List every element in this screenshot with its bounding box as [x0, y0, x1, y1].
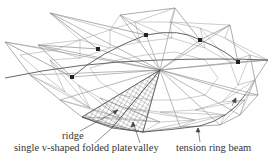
ridge-label: ridge: [62, 131, 84, 142]
tension-ring-beam-label: tension ring beam: [176, 143, 251, 154]
folded-plate-wireframe: [0, 0, 274, 156]
valley-label: valley: [133, 143, 159, 154]
folded-plate-label: single v-shaped folded plate: [14, 143, 132, 154]
v-shaped-folded-plate: [82, 70, 160, 132]
